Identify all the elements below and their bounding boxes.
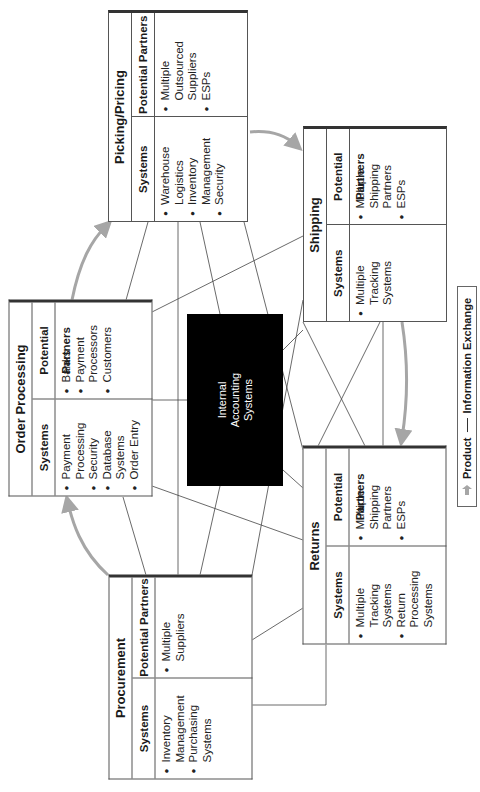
order-processing-box: Order Processing Systems Payment Process… [9, 300, 153, 497]
procurement-box: Procurement Systems Inventory Management… [109, 575, 253, 780]
column-header: Systems [327, 547, 350, 644]
picking-pricing-box: Picking/Pricing Systems Warehouse Logist… [108, 10, 248, 222]
box-title: Order Processing [10, 303, 33, 496]
systems-column: Systems Multiple Tracking Systems [327, 226, 447, 322]
box-title: Returns [304, 449, 327, 644]
column-header: Potential Partners [327, 129, 350, 225]
column-header: Systems [132, 118, 155, 222]
list-item: Inventory Management [186, 122, 213, 218]
list-item: Multiple Tracking Systems [354, 230, 395, 318]
partners-column: Potential Partners Multiple Shipping Par… [327, 449, 447, 547]
column-header: Systems [133, 679, 156, 779]
column-header: Potential Partners [327, 449, 350, 546]
systems-column: Systems Inventory Management Purchasing … [133, 679, 253, 779]
internal-accounting-box: Internal Accounting Systems [187, 314, 283, 486]
center-label-line: Accounting [229, 373, 242, 427]
column-header: Potential Partners [133, 578, 156, 678]
list-item: ESPs [394, 453, 408, 542]
list-item: Purchasing Systems [187, 683, 214, 775]
list-item: Payment Processors [73, 307, 100, 395]
list-item: Multiple Shipping Partners [354, 453, 395, 542]
legend: Product Information Exchange [457, 286, 477, 507]
partners-column: Potential Partners Multiple Outsourced S… [132, 13, 248, 118]
systems-column: Systems Warehouse Logistics Inventory Ma… [132, 118, 248, 222]
list-item: ESPs [200, 17, 214, 113]
legend-product-label: Product [461, 437, 473, 479]
list-item: Database Systems [100, 404, 127, 492]
list-item: Banks [60, 307, 74, 395]
list-item: Inventory Management [160, 683, 187, 775]
list-item: Order Entry [127, 404, 141, 492]
center-label: Internal Accounting Systems [216, 373, 255, 427]
column-header: Potential Partners [132, 13, 155, 117]
legend-info-label: Information Exchange [461, 297, 473, 413]
list-item: Multiple Tracking Systems [354, 551, 395, 640]
systems-column: Systems Payment Processing Security Data… [33, 400, 153, 496]
box-title: Procurement [110, 578, 133, 779]
list-item: ESPs [395, 133, 409, 221]
list-item: Security [87, 404, 101, 492]
partners-column: Potential Partners Multiple Suppliers [133, 578, 253, 679]
box-title: Shipping [304, 129, 327, 321]
list-item: Payment Processing [60, 404, 87, 492]
thin-line-icon [467, 418, 468, 432]
partners-column: Potential Partners Banks Payment Process… [33, 303, 153, 400]
returns-box: Returns Systems Multiple Tracking System… [303, 446, 447, 645]
column-header: Potential Partners [33, 303, 56, 399]
center-label-line: Internal [216, 373, 229, 427]
shipping-box: Shipping Systems Multiple Tracking Syste… [303, 126, 447, 322]
systems-column: Systems Multiple Tracking Systems Return… [327, 547, 447, 644]
box-title: Picking/Pricing [109, 13, 132, 221]
column-header: Systems [33, 400, 56, 496]
list-item: Security [213, 122, 227, 218]
gray-arrow-icon [461, 484, 473, 496]
list-item: Return Processing Systems [394, 551, 435, 640]
list-item: Customers [100, 307, 114, 395]
partners-column: Potential Partners Multiple Shipping Par… [327, 129, 447, 226]
list-item: Warehouse Logistics [159, 122, 186, 218]
list-item: Multiple Outsourced Suppliers [159, 17, 200, 113]
center-label-line: Systems [242, 373, 255, 427]
column-header: Systems [327, 226, 350, 322]
list-item: Multiple Suppliers [160, 582, 187, 674]
list-item: Multiple Shipping Partners [354, 133, 395, 221]
